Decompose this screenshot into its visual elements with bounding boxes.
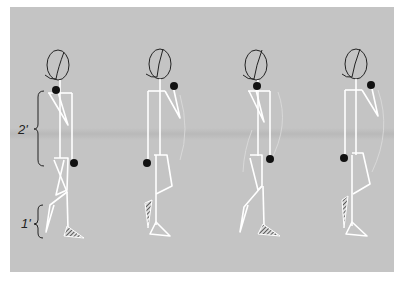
lower-leg-measure-label: 1' <box>21 216 31 231</box>
stick-figure-1 <box>45 50 84 238</box>
hand-joint-icon <box>143 159 151 167</box>
stick-figure-3 <box>240 50 283 236</box>
head-icon <box>149 49 171 79</box>
hand-joint-icon <box>266 155 274 163</box>
neck-joint-icon <box>52 86 60 94</box>
lower-leg-brace <box>34 205 43 238</box>
hand-joint-icon <box>367 81 375 89</box>
stick-figure-4 <box>340 49 384 236</box>
hand-joint-icon <box>70 159 78 167</box>
head-icon <box>245 50 267 80</box>
stick-figures-diagram: 2' 1' <box>0 0 410 282</box>
head-icon <box>47 50 69 80</box>
hand-joint-icon <box>170 82 178 90</box>
hand-joint-icon <box>340 154 348 162</box>
hair-icon <box>45 52 64 79</box>
torso-measure-label: 2' <box>17 122 28 137</box>
torso-brace <box>34 91 44 166</box>
hair-icon <box>243 50 262 79</box>
head-icon <box>345 49 367 79</box>
neck-joint-icon <box>253 82 261 90</box>
stick-figure-2 <box>143 49 185 236</box>
